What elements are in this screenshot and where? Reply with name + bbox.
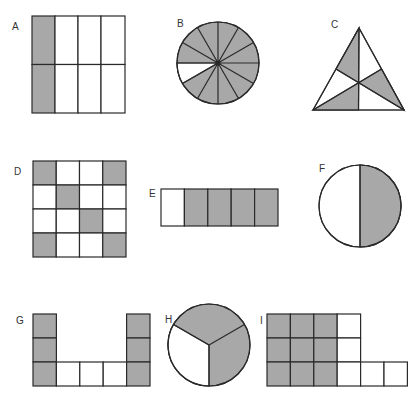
figure-h-circle — [168, 304, 250, 386]
figure-g-u-shape — [33, 314, 150, 386]
figure-c-triangle — [313, 28, 404, 110]
figure-e-strip — [161, 189, 278, 226]
figure-b-circle — [177, 22, 259, 104]
figure-i-l-shape — [267, 314, 407, 386]
fraction-figures — [0, 0, 418, 402]
figure-f-circle — [319, 165, 401, 247]
figure-d-grid — [33, 161, 126, 257]
figure-a-grid — [32, 16, 125, 113]
